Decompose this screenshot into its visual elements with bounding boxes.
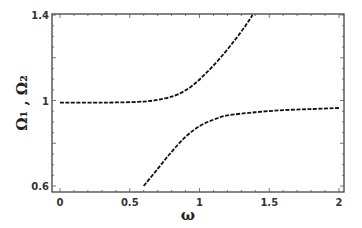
x-tick-label: 0.5 (121, 197, 139, 208)
curve-1 (60, 15, 253, 103)
y-tick-label: 1 (42, 96, 49, 107)
x-tick-label: 0 (57, 197, 64, 208)
y-axis-label: Ω₁ , Ω₂ (13, 75, 31, 131)
y-tick-label: 1.4 (31, 10, 49, 21)
y-tick-label: 0.6 (31, 181, 49, 192)
x-tick-label: 1 (196, 197, 203, 208)
x-axis-label: ω (181, 206, 195, 224)
curves (60, 15, 339, 186)
x-tick-label: 2 (336, 197, 343, 208)
y-tick-labels: 0.611.4 (31, 10, 49, 192)
x-tick-labels: 00.511.52 (57, 197, 343, 208)
x-tick-label: 1.5 (260, 197, 278, 208)
curve-2 (144, 108, 339, 186)
chart: 00.511.52 0.611.4 ω Ω₁ , Ω₂ (0, 0, 362, 228)
